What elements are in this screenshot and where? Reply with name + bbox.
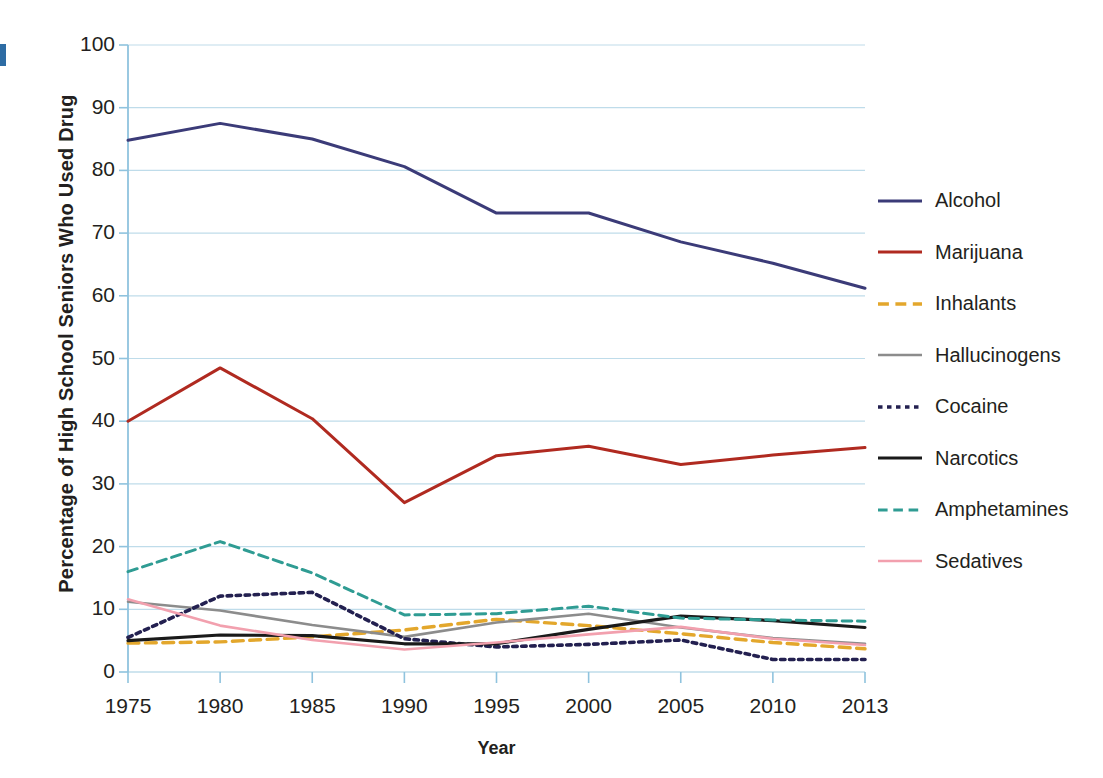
series-line-cocaine bbox=[128, 592, 865, 659]
series-line-marijuana bbox=[128, 368, 865, 503]
legend-item-label: Narcotics bbox=[935, 447, 1018, 470]
chart-root: Percentage of High School Seniors Who Us… bbox=[0, 0, 1103, 778]
x-axis-title: Year bbox=[128, 738, 865, 759]
x-tick-label: 2013 bbox=[825, 694, 905, 718]
legend-item-alcohol[interactable]: Alcohol bbox=[878, 175, 1098, 227]
legend-line-icon bbox=[878, 245, 922, 259]
gridlines bbox=[128, 45, 865, 672]
legend-item-hallucinogens[interactable]: Hallucinogens bbox=[878, 330, 1098, 382]
legend-line-icon bbox=[878, 503, 922, 517]
legend-item-amphetamines[interactable]: Amphetamines bbox=[878, 484, 1098, 536]
x-tick-label: 2000 bbox=[549, 694, 629, 718]
x-tick-label: 2010 bbox=[733, 694, 813, 718]
chart-legend: AlcoholMarijuanaInhalantsHallucinogensCo… bbox=[878, 175, 1098, 587]
legend-line-icon bbox=[878, 194, 922, 208]
legend-item-label: Inhalants bbox=[935, 292, 1016, 315]
legend-item-label: Sedatives bbox=[935, 550, 1023, 573]
legend-item-label: Amphetamines bbox=[935, 498, 1068, 521]
legend-item-marijuana[interactable]: Marijuana bbox=[878, 227, 1098, 279]
legend-line-icon bbox=[878, 348, 922, 362]
legend-item-cocaine[interactable]: Cocaine bbox=[878, 381, 1098, 433]
legend-line-icon bbox=[878, 297, 922, 311]
x-tick-label: 1980 bbox=[180, 694, 260, 718]
legend-item-inhalants[interactable]: Inhalants bbox=[878, 278, 1098, 330]
legend-line-icon bbox=[878, 451, 922, 465]
legend-line-icon bbox=[878, 400, 922, 414]
x-tick-label: 1995 bbox=[457, 694, 537, 718]
series-line-alcohol bbox=[128, 123, 865, 288]
x-tick-label: 2005 bbox=[641, 694, 721, 718]
legend-item-label: Cocaine bbox=[935, 395, 1008, 418]
legend-item-label: Marijuana bbox=[935, 241, 1023, 264]
legend-item-narcotics[interactable]: Narcotics bbox=[878, 433, 1098, 485]
x-tick-label: 1990 bbox=[364, 694, 444, 718]
x-tick-label: 1985 bbox=[272, 694, 352, 718]
legend-item-label: Alcohol bbox=[935, 189, 1001, 212]
legend-line-icon bbox=[878, 554, 922, 568]
x-tick-label: 1975 bbox=[88, 694, 168, 718]
legend-item-label: Hallucinogens bbox=[935, 344, 1061, 367]
legend-item-sedatives[interactable]: Sedatives bbox=[878, 536, 1098, 588]
